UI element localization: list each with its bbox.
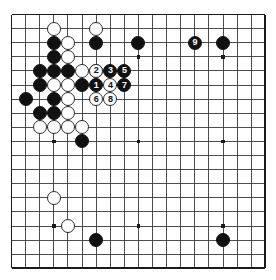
stone-move-number: 5 xyxy=(122,66,127,75)
black-stone xyxy=(75,78,89,92)
black-stone xyxy=(33,78,47,92)
stone-move-number: 9 xyxy=(193,38,198,47)
black-stone xyxy=(47,50,61,64)
black-stone xyxy=(47,106,61,120)
black-stone xyxy=(216,36,230,50)
numbered-stone-9: 9 xyxy=(188,36,202,50)
black-stone xyxy=(33,64,47,78)
black-stone xyxy=(47,92,61,106)
white-stone xyxy=(47,191,61,205)
white-stone xyxy=(61,36,75,50)
white-stone xyxy=(61,92,75,106)
black-stone xyxy=(61,64,75,78)
numbered-stone-1: 1 xyxy=(89,78,103,92)
stone-move-number: 2 xyxy=(94,66,99,75)
go-board-diagram: 123456789 xyxy=(0,0,276,280)
numbered-stone-2: 2 xyxy=(89,64,103,78)
black-stone xyxy=(47,64,61,78)
black-stone xyxy=(216,233,230,247)
stone-move-number: 1 xyxy=(94,81,99,90)
white-stone xyxy=(89,22,103,36)
black-stone xyxy=(47,36,61,50)
white-stone xyxy=(61,106,75,120)
stone-move-number: 8 xyxy=(108,95,113,104)
white-stone xyxy=(61,219,75,233)
black-stone xyxy=(89,36,103,50)
stone-move-number: 3 xyxy=(108,66,113,75)
numbered-stone-3: 3 xyxy=(103,64,117,78)
stone-move-number: 4 xyxy=(108,81,113,90)
white-stone xyxy=(47,120,61,134)
stone-move-number: 6 xyxy=(94,95,99,104)
white-stone xyxy=(61,50,75,64)
white-stone xyxy=(33,120,47,134)
black-stone xyxy=(19,92,33,106)
white-stone xyxy=(47,78,61,92)
white-stone xyxy=(75,64,89,78)
black-stone xyxy=(33,106,47,120)
white-stone xyxy=(47,22,61,36)
black-stone xyxy=(131,36,145,50)
white-stone xyxy=(61,78,75,92)
stone-move-number: 7 xyxy=(122,81,127,90)
